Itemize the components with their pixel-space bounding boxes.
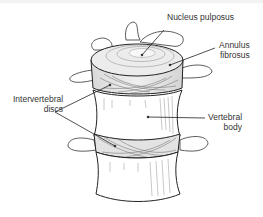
label-nucleus-pulposus: Nucleus pulposus (167, 13, 234, 23)
spine-diagram: Nucleus pulposus Annulus fibrosus Interv… (0, 0, 263, 217)
label-vertebral-line2: body (208, 123, 242, 133)
label-nucleus-pulposus-text: Nucleus pulposus (167, 13, 234, 23)
lower-vertebral-body (96, 152, 180, 202)
label-annulus-line2: fibrosus (219, 51, 250, 61)
top-disc (91, 44, 183, 94)
label-annulus-fibrosus: Annulus fibrosus (219, 41, 250, 60)
label-discs-line2: discs (13, 105, 63, 115)
label-vertebral-body: Vertebral body (208, 113, 242, 132)
label-intervertebral-discs: Intervertebral discs (13, 95, 63, 114)
upper-vertebral-body (93, 90, 182, 141)
